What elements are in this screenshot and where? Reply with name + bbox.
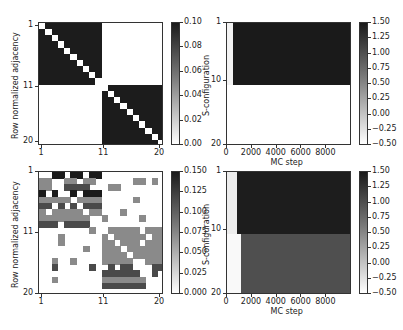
bottom-right-cbar-tick-label: 0.25 [372, 243, 390, 251]
bottom-right-cbar-tick-mark [368, 186, 371, 187]
top-right-ytick-label: 1 [216, 18, 221, 26]
heatmap-cell [139, 178, 146, 185]
heatmap-cell [114, 184, 121, 191]
top-right-cbar-tick-mark [368, 83, 371, 84]
top-right-cbar-tick-mark [368, 22, 371, 23]
bottom-right-xtick-label: 2000 [241, 298, 261, 306]
top-right-ytick-label: 10 [211, 76, 221, 84]
bottom-left-ytick-mark [35, 171, 38, 172]
bottom-right-region [237, 172, 351, 234]
top-right-ytick-label: 20 [211, 140, 221, 148]
heatmap-cell [70, 258, 77, 265]
heatmap-cell [152, 178, 159, 185]
heatmap-cell [89, 264, 96, 271]
top-left-cbar-tick-mark [180, 46, 183, 47]
bottom-right-region [241, 234, 351, 295]
top-left-ytick-label: 20 [23, 137, 33, 145]
top-left-ytick-label: 11 [23, 82, 33, 90]
heatmap-cell [58, 240, 65, 247]
bottom-left-xtick-label: 20 [154, 298, 164, 306]
top-left-cbar-tick-label: 0.08 [184, 42, 202, 50]
bottom-left-colorbar [171, 171, 180, 294]
bottom-right-cbar-tick-mark [368, 202, 371, 203]
bottom-right-ytick-label: 20 [211, 289, 221, 297]
top-right-cbar-tick-mark [368, 144, 371, 145]
top-right-configuration-heatmap [226, 22, 351, 145]
top-right-xlabel: MC step [271, 158, 303, 167]
bottom-right-colorbar [359, 171, 368, 294]
bottom-right-cbar-tick-mark [368, 293, 371, 294]
top-left-cbar-tick-label: 0.02 [184, 116, 202, 124]
top-left-cbar-tick-mark [180, 95, 183, 96]
bottom-right-ytick-label: 1 [216, 167, 221, 175]
top-left-cbar-tick-label: 0.10 [184, 18, 202, 26]
heatmap-cell [152, 270, 159, 277]
bottom-right-cbar-tick-label: 1.25 [372, 182, 390, 190]
bottom-right-region [227, 172, 238, 234]
top-left-ylabel: Row normalized adjacency [11, 32, 20, 139]
bottom-right-xlabel: MC step [271, 307, 303, 316]
bottom-left-ytick-mark [35, 232, 38, 233]
bottom-right-ytick-label: 10 [211, 225, 221, 233]
heatmap-cell [139, 283, 146, 290]
bottom-right-cbar-tick-mark [368, 232, 371, 233]
top-right-cbar-tick-mark [368, 37, 371, 38]
bottom-left-cbar-tick-label: 0.025 [184, 269, 207, 277]
top-right-ylabel: S-configuration [202, 54, 211, 115]
bottom-left-ytick-label: 11 [23, 228, 33, 236]
adjacency-heatmap-top [38, 22, 163, 145]
bottom-right-cbar-tick-mark [368, 247, 371, 248]
bottom-right-cbar-tick-mark [368, 278, 371, 279]
top-left-ytick-mark [35, 86, 38, 87]
bottom-left-cbar-tick-mark [180, 293, 183, 294]
bottom-left-cbar-tick-mark [180, 171, 183, 172]
heatmap-cell [89, 178, 96, 185]
bottom-right-region [227, 234, 241, 295]
bottom-left-cbar-tick-mark [180, 252, 183, 253]
top-right-cbar-tick-mark [368, 114, 371, 115]
top-right-cbar-tick-label: −0.25 [372, 125, 397, 133]
bottom-right-cbar-tick-label: 0.50 [372, 228, 390, 236]
top-right-colorbar [359, 22, 368, 145]
top-right-region [227, 85, 351, 146]
bottom-left-cbar-tick-mark [180, 212, 183, 213]
top-right-cbar-tick-mark [368, 68, 371, 69]
bottom-right-cbar-tick-label: 1.50 [372, 167, 390, 175]
top-left-cbar-tick-mark [180, 22, 183, 23]
bottom-left-cbar-tick-label: 0.000 [184, 289, 207, 297]
heatmap-cell [52, 277, 59, 284]
heatmap-cell [139, 215, 146, 222]
heatmap-cell [102, 215, 109, 222]
bottom-right-xtick-label: 0 [224, 298, 229, 306]
bottom-right-ylabel: S-configuration [202, 203, 211, 264]
bottom-left-ylabel: Row normalized adjacency [11, 181, 20, 288]
top-right-xtick-label: 4000 [266, 149, 286, 157]
adjacency-heatmap-bottom [38, 171, 163, 294]
top-right-cbar-tick-label: 0.25 [372, 94, 390, 102]
heatmap-cell [158, 264, 163, 271]
top-right-cbar-tick-label: 0.75 [372, 64, 390, 72]
top-right-cbar-tick-label: 0.00 [372, 110, 390, 118]
top-left-cbar-tick-label: 0.06 [184, 67, 202, 75]
top-right-xtick-label: 2000 [241, 149, 261, 157]
heatmap-cell [95, 172, 102, 179]
top-right-cbar-tick-label: 1.50 [372, 18, 390, 26]
top-left-cbar-tick-label: 0.00 [184, 140, 202, 148]
bottom-right-xtick-label: 8000 [315, 298, 335, 306]
bottom-right-cbar-tick-mark [368, 263, 371, 264]
top-left-cbar-tick-label: 0.04 [184, 91, 202, 99]
bottom-left-cbar-tick-label: 0.125 [184, 187, 207, 195]
heatmap-cell [133, 197, 140, 204]
top-left-xtick-label: 1 [39, 149, 44, 157]
top-left-cbar-tick-mark [180, 71, 183, 72]
bottom-left-cbar-tick-mark [180, 273, 183, 274]
top-right-cbar-tick-mark [368, 53, 371, 54]
bottom-right-cbar-tick-mark [368, 171, 371, 172]
top-left-xtick-label: 20 [154, 149, 164, 157]
top-right-ytick-mark [223, 80, 226, 81]
bottom-left-xtick-label: 1 [39, 298, 44, 306]
bottom-right-cbar-tick-label: 1.00 [372, 198, 390, 206]
bottom-left-cbar-tick-label: 0.150 [184, 167, 207, 175]
top-left-xtick-label: 11 [98, 149, 108, 157]
top-right-xtick-label: 8000 [315, 149, 335, 157]
